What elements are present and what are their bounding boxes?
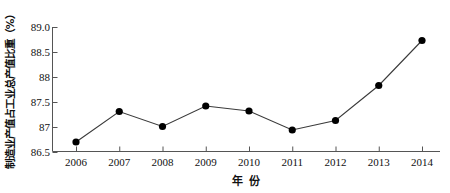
y-tick-label: 86.5 — [12, 147, 50, 158]
data-series-line — [76, 41, 422, 143]
x-tick-label: 2013 — [357, 156, 401, 169]
x-tick-label: 2011 — [270, 156, 314, 169]
x-tick-label: 2008 — [141, 156, 185, 169]
x-tick-label: 2012 — [314, 156, 358, 169]
line-chart-svg — [52, 27, 440, 152]
x-axis-title-part1: 年 — [232, 175, 243, 188]
x-tick-label: 2014 — [400, 156, 444, 169]
plot-area — [52, 27, 440, 152]
y-tick-label: 87.5 — [12, 97, 50, 108]
chart-figure: 制造业产值占工业总产值比重（%） 89.088.58887.58786.5 20… — [0, 0, 450, 193]
chart-axes — [53, 27, 441, 153]
x-tick-label: 2009 — [184, 156, 228, 169]
y-tick-label: 89.0 — [12, 22, 50, 33]
x-axis-tick-labels: 200620072008200920102011201220132014 — [52, 156, 440, 170]
y-tick-label: 88.5 — [12, 47, 50, 58]
x-tick-label: 2007 — [97, 156, 141, 169]
x-tick-label: 2006 — [54, 156, 98, 169]
y-tick-label: 87 — [12, 122, 50, 133]
y-axis-tick-labels: 89.088.58887.58786.5 — [12, 26, 50, 154]
y-tick-label: 88 — [12, 72, 50, 83]
data-point-markers — [72, 37, 425, 146]
x-axis-title: 年份 — [52, 172, 440, 188]
x-axis-title-part2: 份 — [249, 175, 260, 188]
x-tick-label: 2010 — [227, 156, 271, 169]
